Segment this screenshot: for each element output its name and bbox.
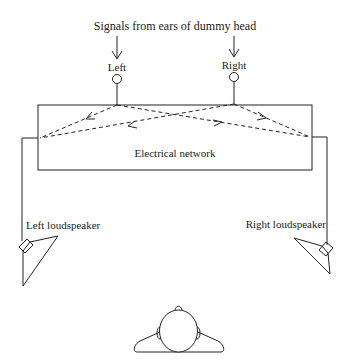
left-loudspeaker-icon: [19, 236, 58, 286]
right-loudspeaker-label: Right loudspeaker: [246, 218, 327, 230]
right-loudspeaker-icon: [294, 238, 333, 274]
left-loudspeaker-label: Left loudspeaker: [26, 219, 101, 231]
right-direct-path: [234, 104, 310, 137]
electrical-network-label: Electrical network: [135, 147, 216, 159]
right-crosstalk-path: [40, 104, 234, 138]
left-input-label: Left: [108, 61, 126, 73]
signal-paths: [40, 104, 310, 138]
arrowhead-icon: [86, 112, 95, 119]
left-signal-arrow-icon: [112, 36, 122, 59]
binaural-crosstalk-diagram: Signals from ears of dummy head Left Rig…: [0, 0, 352, 362]
right-signal-arrow-icon: [229, 36, 239, 57]
right-input-label: Right: [222, 59, 246, 71]
left-crosstalk-path: [117, 105, 310, 137]
left-direct-path: [40, 105, 117, 138]
listener-head-icon: [134, 306, 223, 352]
right-input-terminal-icon: [230, 73, 239, 82]
diagram-title: Signals from ears of dummy head: [94, 19, 256, 33]
left-input-terminal-icon: [113, 75, 122, 84]
